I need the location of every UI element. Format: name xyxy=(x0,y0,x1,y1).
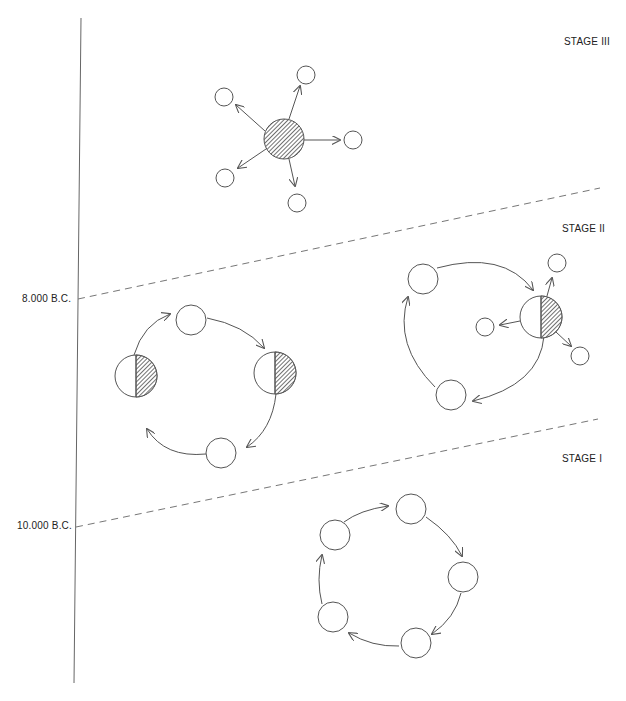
divider-10000bc xyxy=(76,419,598,527)
time-marker-8000bc: 8.000 B.C. xyxy=(22,293,71,304)
stage-diagram xyxy=(0,0,626,701)
stage-1-label: STAGE I xyxy=(562,453,602,464)
half-shaded-site xyxy=(115,355,157,397)
stage-1-cycle xyxy=(318,494,478,658)
half-shaded-site xyxy=(254,352,296,394)
time-axis xyxy=(74,18,81,683)
stage-2-label: STAGE II xyxy=(562,223,605,234)
half-shaded-site xyxy=(520,296,562,338)
stage-3-radiating-pattern xyxy=(215,66,362,212)
stage-2-cycle-left xyxy=(115,305,296,468)
divider-8000bc xyxy=(78,188,600,299)
central-site-shaded xyxy=(264,119,304,159)
stage-3-label: STAGE III xyxy=(564,36,610,47)
time-marker-10000bc: 10.000 B.C. xyxy=(17,520,72,531)
stage-2-cycle-right xyxy=(404,254,589,410)
